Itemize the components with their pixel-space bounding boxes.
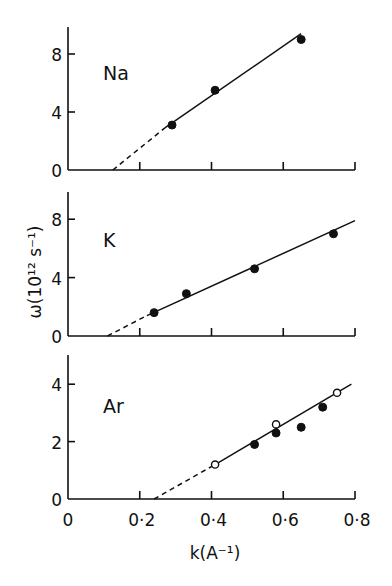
panel-na: 048Na <box>51 27 355 181</box>
data-point-filled <box>329 230 337 238</box>
fit-line <box>215 384 351 464</box>
extrapolation-line <box>113 128 165 170</box>
panel-k: 048K <box>51 192 355 347</box>
data-point-open <box>211 461 218 468</box>
y-tick-label: 4 <box>51 269 62 289</box>
panel-label: Ar <box>103 395 124 417</box>
y-tick-label: 0 <box>51 161 62 181</box>
data-point-filled <box>251 265 259 273</box>
x-tick-label: 0 <box>63 510 74 530</box>
y-tick-label: 2 <box>51 433 62 453</box>
dispersion-chart: 048Na048K024Ar00·20·40·60·8k(A⁻¹)ω(10¹² … <box>0 0 392 586</box>
y-tick-label: 4 <box>51 375 62 395</box>
panel-label: Na <box>103 62 129 84</box>
data-point-filled <box>297 423 305 431</box>
fit-line <box>165 34 301 128</box>
data-point-filled <box>297 36 305 44</box>
y-tick-label: 0 <box>51 327 62 347</box>
data-point-filled <box>319 403 327 411</box>
extrapolation-line <box>154 465 215 499</box>
panel-ar: 024Ar <box>51 355 355 510</box>
data-point-filled <box>150 309 158 317</box>
data-point-filled <box>211 86 219 94</box>
data-point-filled <box>272 429 280 437</box>
data-point-open <box>272 421 279 428</box>
data-point-filled <box>168 121 176 129</box>
y-tick-label: 4 <box>51 103 62 123</box>
x-tick-label: 0·6 <box>272 510 299 530</box>
y-tick-label: 0 <box>51 490 62 510</box>
panel-label: K <box>103 229 116 251</box>
y-tick-label: 8 <box>51 210 62 230</box>
extrapolation-line <box>107 316 146 336</box>
data-point-open <box>333 389 340 396</box>
y-tick-label: 8 <box>51 45 62 65</box>
x-tick-label: 0·8 <box>343 510 370 530</box>
x-tick-label: 0·4 <box>200 510 227 530</box>
data-point-filled <box>182 290 190 298</box>
data-point-filled <box>251 440 259 448</box>
y-axis-title: ω(10¹² s⁻¹) <box>25 226 45 319</box>
x-axis-title: k(A⁻¹) <box>190 543 241 563</box>
x-tick-label: 0·2 <box>128 510 155 530</box>
